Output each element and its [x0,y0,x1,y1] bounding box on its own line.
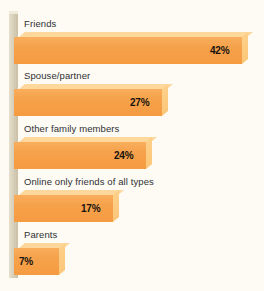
bar-chart: Friends 42% Spouse/partner 27% Other fam… [0,0,264,291]
bar-front-face [14,37,242,64]
bar-value-label: 42% [210,45,229,56]
bar-value-label: 24% [114,150,133,161]
bar-value-label: 27% [130,97,149,108]
bar-category-label: Parents [24,229,57,240]
bar-value-label: 7% [19,256,33,267]
bar-category-label: Other family members [24,123,119,134]
bar-right-face [162,84,168,116]
bar-right-face [113,190,119,222]
bar-category-label: Friends [24,18,56,29]
bar-value-label: 17% [81,203,100,214]
bar-category-label: Online only friends of all types [24,176,154,187]
bar-right-face [59,243,65,275]
bar-right-face [242,32,248,64]
bar-right-face [146,137,152,169]
bar-category-label: Spouse/partner [24,70,90,81]
bar-3d-group[interactable] [14,190,121,222]
